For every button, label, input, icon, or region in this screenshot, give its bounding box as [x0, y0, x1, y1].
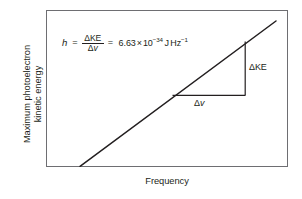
x-axis-title: Frequency	[46, 176, 288, 186]
rise-label-delta-ke: ΔKE	[249, 62, 267, 72]
photoelectric-effect-figure: h = ΔKE Δv = 6.63×10−34JHz−1 ΔKE Δv Maxi…	[0, 0, 302, 199]
equation-times-symbol: ×	[137, 38, 142, 48]
equation-unit-hertz: Hz	[170, 38, 181, 48]
equation-fraction: ΔKE Δv	[82, 34, 104, 53]
equation-unit-hertz-exponent: −1	[181, 36, 188, 43]
run-label-delta-nu: Δv	[194, 98, 204, 108]
y-axis-title-line-2: kinetic energy	[33, 66, 44, 123]
planck-constant-equation: h = ΔKE Δv = 6.63×10−34JHz−1	[62, 33, 188, 52]
fraction-denominator-nu: v	[93, 43, 97, 53]
equation-base: 10	[143, 38, 153, 48]
fraction-denominator: Δv	[87, 44, 99, 53]
equation-value: 6.63	[119, 38, 136, 48]
equation-equals-second: =	[108, 38, 113, 47]
equation-symbol-h: h	[62, 38, 67, 48]
run-label-nu: v	[200, 98, 204, 108]
fraction-numerator: ΔKE	[83, 34, 102, 43]
equation-exponent: −34	[153, 36, 163, 43]
y-axis-title-line-1: Maximum photoelectron	[22, 45, 33, 143]
equation-unit-joule: J	[164, 38, 168, 48]
equation-equals-first: =	[72, 38, 77, 47]
equation-right-hand-side: 6.63×10−34JHz−1	[119, 37, 188, 48]
y-axis-title: Maximum photoelectron kinetic energy	[18, 14, 48, 174]
